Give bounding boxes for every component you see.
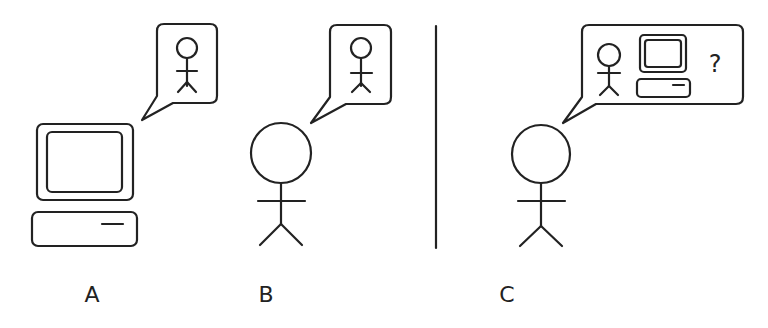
label-a: A <box>77 282 107 307</box>
panel-a-computer-icon <box>32 124 137 246</box>
diagram-canvas <box>0 0 768 328</box>
panel-b-person-icon <box>251 123 311 245</box>
panel-c-person-icon <box>512 125 570 246</box>
panel-c-bubble-person-icon <box>598 44 620 95</box>
label-c: C <box>492 282 522 307</box>
label-b: B <box>251 282 281 307</box>
panel-b-bubble-person-icon <box>351 38 372 92</box>
panel-a-bubble-person-icon <box>177 38 197 92</box>
panel-c-bubble-computer-icon <box>637 35 690 97</box>
question-mark: ? <box>705 50 725 78</box>
